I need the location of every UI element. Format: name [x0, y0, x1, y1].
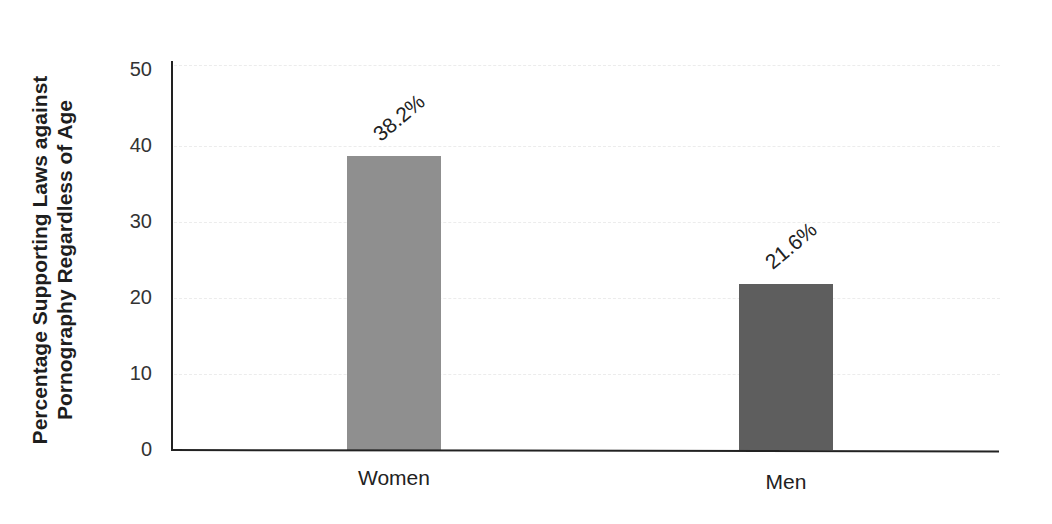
- bar-chart: Percentage Supporting Laws against Porno…: [0, 0, 1052, 524]
- x-axis-line: [171, 449, 999, 452]
- y-tick-20: 20: [112, 286, 152, 309]
- gridline-30: [174, 222, 1000, 223]
- x-category-women: Women: [324, 466, 464, 490]
- y-tick-40: 40: [112, 134, 152, 157]
- y-tick-10: 10: [112, 362, 152, 385]
- y-tick-30: 30: [112, 210, 152, 233]
- gridline-20: [174, 298, 1000, 299]
- x-category-men: Men: [716, 470, 856, 494]
- bar-men: [739, 284, 833, 450]
- gridline-10: [174, 374, 1000, 375]
- data-label-women: 38.2%: [369, 89, 430, 146]
- gridline-50: [174, 65, 1000, 66]
- data-label-men: 21.6%: [761, 217, 822, 274]
- y-axis-line: [171, 61, 173, 451]
- y-axis-title-line-2: Pornography Regardless of Age: [52, 76, 77, 445]
- bar-women: [347, 156, 441, 450]
- y-tick-0: 0: [112, 438, 152, 461]
- gridline-40: [174, 146, 1000, 147]
- y-axis-title-line-1: Percentage Supporting Laws against: [27, 76, 52, 445]
- y-tick-50: 50: [112, 58, 152, 81]
